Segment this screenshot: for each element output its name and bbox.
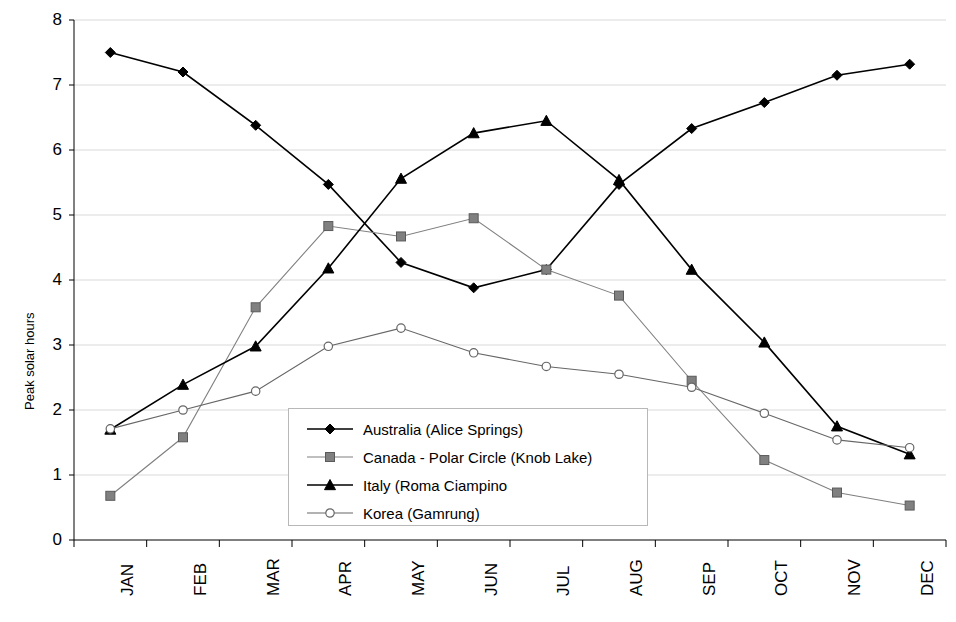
legend-label: Canada - Polar Circle (Knob Lake) bbox=[363, 449, 592, 466]
marker-diamond bbox=[105, 48, 115, 58]
y-tick-label-3: 3 bbox=[32, 336, 62, 353]
marker-square bbox=[833, 488, 842, 497]
y-tick-label-1: 1 bbox=[32, 466, 62, 483]
marker-square bbox=[251, 303, 260, 312]
marker-square bbox=[905, 501, 914, 510]
x-tick-label-jun: JUN bbox=[482, 563, 502, 596]
x-tick-label-feb: FEB bbox=[191, 563, 211, 596]
marker-circle bbox=[179, 406, 187, 414]
x-tick-label-sep: SEP bbox=[700, 562, 720, 596]
solar-hours-line-chart: Peak solar hours 876543210 JANFEBMARAPRM… bbox=[0, 0, 956, 622]
marker-circle bbox=[469, 349, 477, 357]
legend-item-2[interactable]: Italy (Roma Ciampino bbox=[289, 471, 647, 499]
marker-circle bbox=[326, 509, 334, 517]
x-tick-label-oct: OCT bbox=[772, 560, 792, 596]
marker-circle bbox=[687, 383, 695, 391]
y-axis-title: Peak solar hours bbox=[22, 312, 37, 410]
marker-square bbox=[542, 265, 551, 274]
marker-square bbox=[397, 232, 406, 241]
marker-square bbox=[760, 456, 769, 465]
marker-square bbox=[469, 214, 478, 223]
x-tick-label-mar: MAR bbox=[264, 558, 284, 596]
chart-legend: Australia (Alice Springs)Canada - Polar … bbox=[288, 408, 648, 526]
y-tick-label-0: 0 bbox=[32, 531, 62, 548]
marker-square bbox=[106, 491, 115, 500]
marker-circle bbox=[760, 409, 768, 417]
series-line-0 bbox=[110, 53, 909, 288]
marker-triangle bbox=[396, 173, 407, 183]
marker-square bbox=[615, 291, 624, 300]
legend-item-0[interactable]: Australia (Alice Springs) bbox=[289, 415, 647, 443]
legend-label: Korea (Gamrung) bbox=[363, 505, 480, 522]
y-tick-label-5: 5 bbox=[32, 206, 62, 223]
marker-diamond bbox=[759, 98, 769, 108]
legend-item-3[interactable]: Korea (Gamrung) bbox=[289, 499, 647, 527]
marker-circle bbox=[324, 342, 332, 350]
x-tick-label-jan: JAN bbox=[118, 564, 138, 596]
series-line-2 bbox=[110, 121, 909, 454]
legend-marker-icon bbox=[305, 422, 355, 436]
marker-square bbox=[326, 453, 335, 462]
legend-label: Italy (Roma Ciampino bbox=[363, 477, 507, 494]
x-tick-label-aug: AUG bbox=[627, 559, 647, 596]
plot-area bbox=[0, 0, 956, 622]
x-tick-label-may: MAY bbox=[409, 560, 429, 596]
legend-item-1[interactable]: Canada - Polar Circle (Knob Lake) bbox=[289, 443, 647, 471]
x-tick-label-apr: APR bbox=[336, 561, 356, 596]
marker-diamond bbox=[469, 283, 479, 293]
marker-circle bbox=[106, 425, 114, 433]
y-tick-label-8: 8 bbox=[32, 11, 62, 28]
marker-diamond bbox=[905, 59, 915, 69]
y-tick-label-6: 6 bbox=[32, 141, 62, 158]
marker-square bbox=[324, 222, 333, 231]
x-tick-label-nov: NOV bbox=[845, 559, 865, 596]
marker-circle bbox=[251, 387, 259, 395]
marker-square bbox=[179, 433, 188, 442]
y-tick-label-7: 7 bbox=[32, 76, 62, 93]
legend-marker-icon bbox=[305, 506, 355, 520]
marker-circle bbox=[542, 362, 550, 370]
marker-circle bbox=[833, 436, 841, 444]
marker-circle bbox=[615, 370, 623, 378]
legend-label: Australia (Alice Springs) bbox=[363, 421, 523, 438]
legend-marker-icon bbox=[305, 478, 355, 492]
legend-marker-icon bbox=[305, 450, 355, 464]
series-0 bbox=[105, 48, 914, 293]
marker-triangle bbox=[541, 115, 552, 125]
marker-circle bbox=[397, 324, 405, 332]
x-tick-label-dec: DEC bbox=[918, 560, 938, 596]
x-tick-label-jul: JUL bbox=[554, 566, 574, 596]
marker-diamond bbox=[325, 424, 335, 434]
marker-triangle bbox=[178, 379, 189, 389]
marker-diamond bbox=[832, 70, 842, 80]
y-tick-label-2: 2 bbox=[32, 401, 62, 418]
marker-circle bbox=[905, 444, 913, 452]
y-tick-label-4: 4 bbox=[32, 271, 62, 288]
